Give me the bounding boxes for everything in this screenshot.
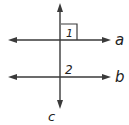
arrowhead-right-icon (102, 74, 111, 80)
angle-2-label: 2 (65, 63, 73, 77)
arrowhead-left-icon (8, 74, 17, 80)
angle-1-label: 1 (66, 27, 73, 40)
line-c (57, 3, 63, 109)
line-b-label: b (115, 68, 125, 86)
arrowhead-up-icon (57, 3, 63, 12)
line-c-label: c (48, 109, 55, 124)
arrowhead-down-icon (57, 100, 63, 109)
arrowhead-left-icon (8, 37, 17, 43)
arrowhead-right-icon (102, 37, 111, 43)
line-a-label: a (115, 31, 124, 49)
parallel-lines-diagram: 1 2 a b c (0, 0, 129, 125)
